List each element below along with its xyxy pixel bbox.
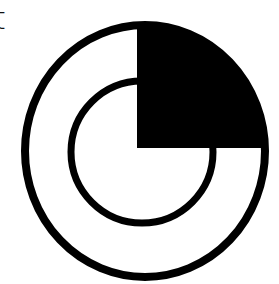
filled-quadrant-overlay	[137, 24, 265, 148]
quarter-filled-concentric-ring-icon	[0, 0, 279, 284]
